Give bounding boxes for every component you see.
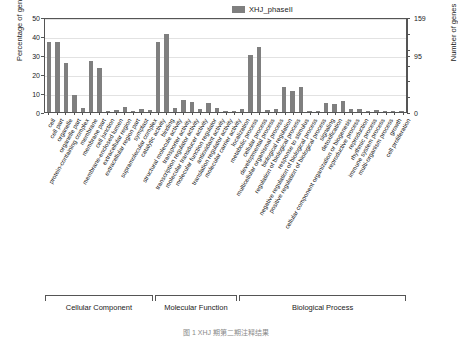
bar[interactable]	[341, 101, 345, 112]
group-bracket-label: Molecular Function	[155, 303, 237, 312]
x-tick-mark	[183, 113, 184, 115]
bar[interactable]	[282, 87, 286, 112]
bar-slot	[297, 19, 305, 112]
plot-area	[44, 18, 407, 113]
bar[interactable]	[299, 87, 303, 112]
x-tick-mark	[318, 113, 319, 115]
x-tick-mark	[226, 113, 227, 115]
x-tick-mark	[276, 113, 277, 115]
bar-slot	[288, 19, 296, 112]
bar[interactable]	[55, 42, 59, 112]
x-tick-mark	[285, 113, 286, 115]
y-tick-mark-right	[407, 18, 410, 19]
bar-slot	[154, 19, 162, 112]
x-tick-mark	[107, 113, 108, 115]
bar-slot	[347, 19, 355, 112]
x-tick-mark	[377, 113, 378, 115]
y-tick-label-left: 30	[14, 53, 40, 60]
bar-slot	[238, 19, 246, 112]
bar-slot	[246, 19, 254, 112]
group-bracket	[45, 295, 153, 301]
bar[interactable]	[290, 91, 294, 112]
bar-slot	[389, 19, 397, 112]
group-bracket	[155, 295, 237, 301]
bar[interactable]	[190, 102, 194, 112]
y-tick-label-right: 159	[414, 15, 426, 22]
y-tick-label-right: 95	[414, 53, 422, 60]
x-tick-mark	[327, 113, 328, 115]
y-tick-label-left: 10	[14, 91, 40, 98]
x-tick-mark	[344, 113, 345, 115]
bar[interactable]	[181, 100, 185, 112]
x-tick-mark	[150, 113, 151, 115]
bar-slot	[146, 19, 154, 112]
x-tick-mark	[57, 113, 58, 115]
x-tick-mark	[90, 113, 91, 115]
y-axis-right-title: Number of genes	[449, 0, 458, 88]
bar-slot	[95, 19, 103, 112]
x-tick-mark	[48, 113, 49, 115]
bar-slot	[280, 19, 288, 112]
bar-slot	[230, 19, 238, 112]
x-tick-mark	[251, 113, 252, 115]
x-tick-mark	[200, 113, 201, 115]
bar-slot	[255, 19, 263, 112]
bar-slot	[137, 19, 145, 112]
bar-slot	[121, 19, 129, 112]
y-tick-mark-right-minor	[407, 66, 410, 67]
bar-slot	[322, 19, 330, 112]
y-tick-mark-right-minor	[407, 97, 410, 98]
bar-slot	[171, 19, 179, 112]
y-tick-label-left: 0	[14, 110, 40, 117]
group-bracket-label: Cellular Component	[45, 303, 153, 312]
bar[interactable]	[72, 95, 76, 112]
bar[interactable]	[164, 34, 168, 112]
bar-slot	[79, 19, 87, 112]
bar[interactable]	[156, 42, 160, 112]
bar[interactable]	[89, 61, 93, 112]
chart-legend: XHJ_phaseII	[232, 5, 293, 14]
y-tick-mark-right	[407, 56, 410, 57]
bar-slot	[372, 19, 380, 112]
bar-slot	[263, 19, 271, 112]
legend-label-xhj-phaseii: XHJ_phaseII	[249, 5, 293, 14]
y-axis-left-title: Percentage of genes	[15, 0, 24, 82]
bar-slot	[188, 19, 196, 112]
bar[interactable]	[332, 104, 336, 112]
bar-slot	[397, 19, 405, 112]
bar-slot	[179, 19, 187, 112]
x-tick-mark	[310, 113, 311, 115]
x-tick-mark	[386, 113, 387, 115]
x-tick-mark	[166, 113, 167, 115]
x-axis-labels: cellcell partorganelleorganelle partprot…	[44, 113, 407, 283]
bar[interactable]	[324, 103, 328, 113]
x-tick-mark	[352, 113, 353, 115]
bar[interactable]	[97, 68, 101, 112]
bar-slot	[53, 19, 61, 112]
bar-slot	[339, 19, 347, 112]
bar-slot	[364, 19, 372, 112]
bar[interactable]	[64, 63, 68, 112]
y-axis-left: Percentage of genes 01020304050	[0, 0, 44, 113]
bar-slot	[305, 19, 313, 112]
y-tick-label-right: 0	[414, 110, 418, 117]
bar-slot	[87, 19, 95, 112]
x-tick-mark	[158, 113, 159, 115]
x-tick-mark	[74, 113, 75, 115]
x-tick-mark	[116, 113, 117, 115]
bar-series-xhj-phaseii	[45, 19, 406, 112]
bar[interactable]	[257, 47, 261, 112]
bar-slot	[381, 19, 389, 112]
legend-swatch-xhj-phaseii	[232, 6, 245, 13]
bar-slot	[355, 19, 363, 112]
x-tick-mark	[403, 113, 404, 115]
bar[interactable]	[206, 103, 210, 112]
x-tick-mark	[99, 113, 100, 115]
y-tick-label-left: 40	[14, 34, 40, 41]
bar-slot	[330, 19, 338, 112]
x-tick-mark	[209, 113, 210, 115]
bar[interactable]	[47, 42, 51, 112]
y-axis-right: 095159	[407, 18, 452, 113]
bar[interactable]	[248, 55, 252, 112]
